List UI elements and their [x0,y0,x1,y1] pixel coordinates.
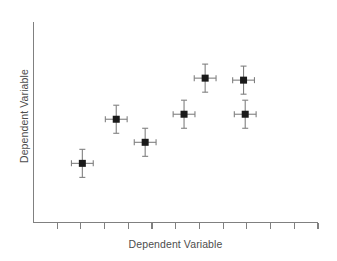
data-point-5 [233,66,255,94]
scatter-plot-figure: Dependent Variable Dependent Variable [0,0,337,261]
y-axis-label: Dependent Variable [18,69,30,163]
data-point-6 [234,100,256,128]
marker-square [240,77,247,84]
plot-canvas [0,0,337,261]
data-point-2 [134,128,156,156]
data-point-4 [194,64,216,92]
data-point-3 [173,100,195,128]
data-point-0 [71,149,93,177]
x-axis-label: Dependent Variable [7,238,337,250]
axes [34,22,319,223]
marker-square [242,111,249,118]
data-point-1 [105,105,127,133]
marker-square [181,111,188,118]
marker-square [79,160,86,167]
marker-square [113,116,120,123]
marker-square [142,139,149,146]
marker-square [202,75,209,82]
data-series [71,64,256,177]
x-axis-ticks [57,223,318,229]
